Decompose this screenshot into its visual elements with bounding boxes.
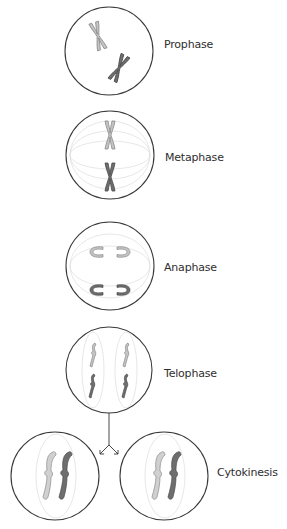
metaphase-cell — [66, 111, 154, 199]
cytokinesis-cell-right — [120, 432, 208, 520]
telophase-cell — [66, 327, 152, 413]
cell-membrane — [11, 432, 99, 520]
prophase-cell — [65, 7, 153, 95]
stage-label-prophase: Prophase — [164, 38, 213, 51]
stage-label-anaphase: Anaphase — [164, 261, 217, 274]
diagram-canvas — [0, 0, 287, 529]
cytokinesis-cell-left — [11, 432, 99, 520]
cell-membrane — [66, 327, 152, 413]
cell-membrane — [65, 7, 153, 95]
cell-membrane — [120, 432, 208, 520]
stage-label-telophase: Telophase — [164, 367, 217, 380]
split-arrow-icon — [100, 413, 118, 454]
stage-label-metaphase: Metaphase — [165, 151, 224, 164]
stage-label-cytokinesis: Cytokinesis — [217, 466, 278, 479]
cell-membrane — [66, 111, 154, 199]
mitosis-diagram: Prophase Metaphase Anaphase Telophase Cy… — [0, 0, 287, 529]
anaphase-cell — [66, 222, 154, 310]
cell-membrane — [66, 222, 154, 310]
